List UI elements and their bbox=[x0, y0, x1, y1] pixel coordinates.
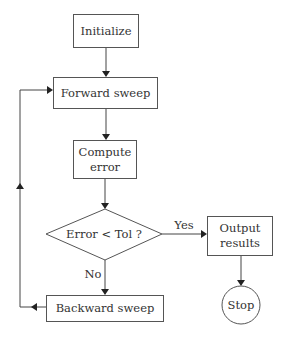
arrow-down-icon bbox=[102, 134, 110, 140]
no-label: No bbox=[85, 267, 102, 281]
stop-label: Stop bbox=[228, 298, 255, 312]
node-stop: Stop bbox=[222, 286, 260, 324]
compute-error-label-line2: error bbox=[90, 160, 121, 174]
edge-output-to-stop bbox=[237, 256, 245, 286]
edge-forward-to-compute bbox=[102, 109, 110, 140]
arrow-down-icon bbox=[101, 289, 109, 295]
arrow-right-icon bbox=[47, 86, 53, 94]
arrow-left-icon bbox=[31, 303, 37, 311]
arrow-down-icon bbox=[102, 71, 110, 77]
compute-error-label-line1: Compute bbox=[79, 145, 132, 159]
arrow-up-icon bbox=[16, 183, 24, 189]
edge-initialize-to-forward bbox=[102, 48, 110, 77]
output-results-label-line1: Output bbox=[220, 221, 261, 235]
edge-compute-to-decision bbox=[101, 179, 109, 209]
node-forward-sweep: Forward sweep bbox=[54, 78, 158, 109]
backward-sweep-label: Backward sweep bbox=[56, 301, 155, 315]
flowchart-canvas: Initialize Forward sweep Compute error E… bbox=[0, 0, 286, 337]
edge-decision-no: No bbox=[85, 260, 110, 295]
edge-decision-yes: Yes bbox=[162, 218, 207, 238]
arrow-right-icon bbox=[201, 230, 207, 238]
initialize-label: Initialize bbox=[80, 24, 131, 38]
node-backward-sweep: Backward sweep bbox=[47, 296, 164, 322]
node-output-results: Output results bbox=[208, 217, 273, 256]
arrow-down-icon bbox=[237, 280, 245, 286]
node-decision: Error < Tol ? bbox=[46, 209, 162, 260]
forward-sweep-label: Forward sweep bbox=[61, 86, 151, 100]
node-compute-error: Compute error bbox=[74, 141, 137, 179]
output-results-label-line2: results bbox=[220, 236, 260, 250]
yes-label: Yes bbox=[173, 218, 193, 232]
decision-label: Error < Tol ? bbox=[66, 227, 142, 241]
arrow-down-icon bbox=[101, 203, 109, 209]
node-initialize: Initialize bbox=[74, 15, 139, 48]
edge-backward-loop bbox=[16, 86, 53, 311]
